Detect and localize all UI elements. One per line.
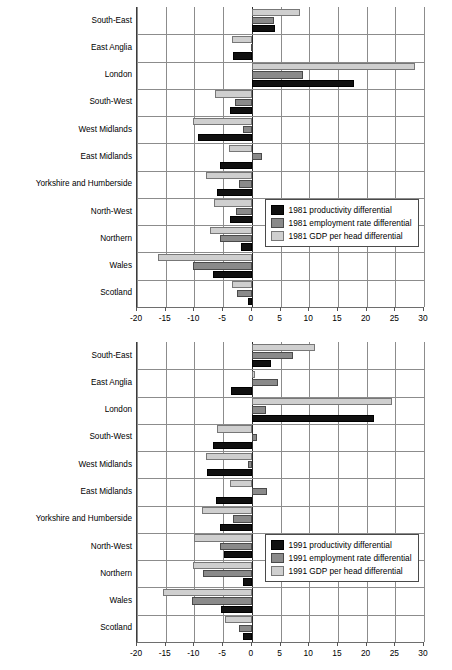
gridline-horizontal [137, 424, 424, 425]
x-tick [394, 642, 395, 646]
gridline-vertical [424, 7, 425, 307]
bar-1991-gdp-4 [206, 453, 252, 460]
x-tick [308, 642, 309, 646]
category-label-1991-5: East Midlands [81, 487, 132, 496]
plot-area-1981 [136, 7, 425, 307]
x-tick [222, 642, 223, 646]
x-tick-label: 20 [361, 648, 370, 658]
gridline-vertical [137, 342, 138, 642]
bar-1991-employment-10 [239, 625, 252, 632]
x-tick-label: -5 [218, 648, 225, 658]
gridline-vertical [395, 7, 396, 307]
plot-area-1991 [136, 342, 425, 642]
bar-1991-gdp-9 [163, 589, 251, 596]
x-tick-label: -10 [187, 313, 199, 323]
legend-item-1981-employment: 1981 employment rate differential [271, 217, 412, 229]
gridline-vertical [367, 7, 368, 307]
legend-swatch-employment-icon [271, 553, 284, 563]
x-tick-label: -15 [159, 648, 171, 658]
gridline-vertical [338, 342, 339, 642]
category-label-1991-8: Northern [100, 569, 132, 578]
legend-1981: 1981 productivity differential1981 emplo… [265, 199, 419, 247]
bar-1991-gdp-0 [252, 344, 315, 351]
bar-1981-gdp-2 [252, 63, 415, 70]
gridline-vertical [166, 7, 167, 307]
bar-1991-gdp-3 [217, 425, 251, 432]
x-tick-label: 0 [248, 313, 253, 323]
x-tick [251, 642, 252, 646]
gridline-horizontal [137, 116, 424, 117]
bar-1991-productivity-10 [243, 633, 252, 640]
bar-1981-employment-7 [236, 208, 252, 215]
category-label-1981-3: South-West [89, 97, 132, 106]
gridline-vertical [424, 342, 425, 642]
bar-1981-gdp-6 [206, 172, 252, 179]
legend-swatch-employment-icon [271, 218, 284, 228]
bar-1981-gdp-0 [252, 9, 300, 16]
legend-label: 1991 productivity differential [289, 540, 392, 550]
bar-1991-employment-0 [252, 352, 293, 359]
gridline-vertical [395, 342, 396, 642]
legend-swatch-productivity-icon [271, 540, 284, 550]
category-label-1981-5: East Midlands [81, 152, 132, 161]
category-label-1991-0: South-East [91, 351, 132, 360]
bar-1981-productivity-2 [252, 80, 354, 87]
legend-item-1991-gdp: 1991 GDP per head differential [271, 565, 412, 577]
x-tick-label: 30 [418, 648, 427, 658]
x-tick [193, 307, 194, 311]
x-tick-label: 10 [304, 648, 313, 658]
x-tick [251, 307, 252, 311]
x-tick [136, 307, 137, 311]
bar-1991-productivity-7 [224, 551, 252, 558]
bar-1991-employment-4 [248, 461, 251, 468]
category-label-1981-7: North-West [91, 207, 132, 216]
x-tick [165, 642, 166, 646]
x-tick-label: 0 [248, 648, 253, 658]
category-label-1991-4: West Midlands [78, 460, 132, 469]
bar-1981-productivity-8 [241, 243, 251, 250]
bar-1991-employment-8 [203, 570, 252, 577]
x-tick-label: 5 [277, 313, 282, 323]
x-tick [222, 307, 223, 311]
bar-1981-employment-2 [252, 71, 304, 78]
bar-1991-employment-5 [252, 488, 267, 495]
x-tick [366, 642, 367, 646]
category-label-1991-3: South-West [89, 432, 132, 441]
bar-1991-employment-3 [252, 434, 257, 441]
x-tick-label: 15 [332, 648, 341, 658]
bar-1981-productivity-3 [230, 107, 252, 114]
category-label-1991-9: Wales [110, 596, 132, 605]
legend-label: 1991 employment rate differential [289, 553, 412, 563]
gridline-horizontal [137, 34, 424, 35]
gridline-horizontal [137, 171, 424, 172]
x-tick [165, 307, 166, 311]
bar-1981-productivity-6 [217, 189, 251, 196]
category-label-1981-2: London [105, 70, 132, 79]
x-tick-label: 10 [304, 313, 313, 323]
category-label-1981-1: East Anglia [91, 43, 132, 52]
gridline-vertical [309, 7, 310, 307]
x-tick [308, 307, 309, 311]
x-tick-label: 5 [277, 648, 282, 658]
gridline-vertical [338, 7, 339, 307]
category-axis-1981: South-EastEast AngliaLondonSouth-WestWes… [0, 0, 136, 300]
category-axis-1991: South-EastEast AngliaLondonSouth-WestWes… [0, 335, 136, 635]
x-tick [337, 642, 338, 646]
bar-1981-employment-10 [237, 290, 251, 297]
x-tick-label: 30 [418, 313, 427, 323]
category-label-1991-10: Scotland [100, 623, 132, 632]
x-tick [193, 642, 194, 646]
bar-1981-productivity-9 [213, 271, 252, 278]
x-tick [423, 307, 424, 311]
x-tick [280, 642, 281, 646]
category-label-1981-0: South-East [91, 16, 132, 25]
bar-1991-productivity-5 [216, 497, 252, 504]
bar-1991-productivity-6 [220, 524, 252, 531]
x-tick [337, 307, 338, 311]
x-tick-label: -5 [218, 313, 225, 323]
bar-1991-gdp-2 [252, 398, 392, 405]
bar-1991-employment-2 [252, 406, 266, 413]
x-tick [394, 307, 395, 311]
gridline-vertical [367, 342, 368, 642]
bar-1981-employment-5 [252, 153, 262, 160]
